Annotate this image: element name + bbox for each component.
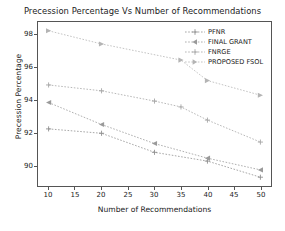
chart-title: Precession Percentage Vs Number of Recom… [0,6,285,16]
series-fnrge [46,82,263,144]
x-axis-label: Number of Recommendations [37,205,272,214]
x-tick-mark [234,187,235,190]
data-point-marker [205,78,210,83]
x-tick-mark [48,187,49,190]
y-tick-label: 90 [11,162,33,170]
series-final-grant [46,100,263,172]
x-tick-label: 50 [249,191,273,199]
data-point-marker [152,99,157,104]
data-point-marker [258,93,263,98]
y-tick-label: 94 [11,96,33,104]
legend-marker-final-grant [184,37,206,47]
x-tick-label: 45 [222,191,246,199]
y-tick-label: 96 [11,63,33,71]
data-point-marker [99,131,104,136]
data-point-marker [258,140,263,145]
legend-item-pfnr: PFNR [184,27,268,37]
x-tick-label: 15 [63,191,87,199]
x-tick-label: 10 [36,191,60,199]
x-tick-mark [208,187,209,190]
x-tick-label: 20 [89,191,113,199]
y-tick-label: 92 [11,129,33,137]
data-point-marker [46,82,51,87]
legend-label: FNRGE [206,48,231,56]
series-line [49,85,261,142]
x-tick-label: 35 [169,191,193,199]
legend-item-fnrge: FNRGE [184,47,268,57]
legend-label: PROPOSED FSOL [206,58,263,66]
data-point-marker [46,126,51,131]
data-point-marker [152,150,157,155]
data-point-marker [205,118,210,123]
x-tick-label: 40 [196,191,220,199]
data-point-marker [99,88,104,93]
legend-item-proposed-fsol: PROPOSED FSOL [184,57,268,67]
data-point-marker [258,167,263,172]
legend-marker-fnrge [184,47,206,57]
data-point-marker [99,122,104,127]
legend-label: PFNR [206,28,225,36]
series-pfnr [46,126,263,179]
data-point-marker [178,104,183,109]
legend-marker-proposed-fsol [184,57,206,67]
data-point-marker [46,100,51,105]
data-point-marker [46,28,51,33]
chart-figure: Precession Percentage Vs Number of Recom… [0,0,285,231]
x-tick-mark [101,187,102,190]
x-tick-mark [261,187,262,190]
x-tick-label: 30 [142,191,166,199]
x-tick-mark [74,187,75,190]
legend: PFNR FINAL GRANT FNRGE PROPOSED FSOL [182,25,270,70]
y-tick-label: 98 [11,30,33,38]
x-tick-mark [128,187,129,190]
x-tick-mark [154,187,155,190]
data-point-marker [152,141,157,146]
data-point-marker [258,175,263,180]
data-point-marker [99,41,104,46]
series-line [49,103,261,170]
legend-marker-pfnr [184,27,206,37]
x-tick-mark [181,187,182,190]
legend-label: FINAL GRANT [206,38,252,46]
x-tick-label: 25 [116,191,140,199]
legend-item-final-grant: FINAL GRANT [184,37,268,47]
